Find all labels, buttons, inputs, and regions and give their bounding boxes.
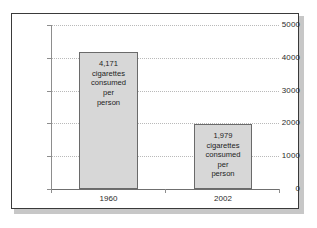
- y-axis-line: [51, 25, 52, 189]
- gridline-5000: [52, 25, 279, 26]
- bar-1960-line5: person: [80, 98, 137, 108]
- chart-frame: 5000 4000 3000 2000 1000 0 4,171 cigaret…: [11, 13, 299, 209]
- bar-1960-line2: cigarettes: [80, 69, 137, 79]
- y-tick-1000: [47, 156, 52, 157]
- y-tick-5000: [47, 25, 52, 26]
- y-tick-3000: [47, 91, 52, 92]
- bar-2002-label: 1,979 cigarettes consumed per person: [195, 131, 251, 179]
- figure-root: 5000 4000 3000 2000 1000 0 4,171 cigaret…: [0, 0, 317, 228]
- bar-2002-line2: cigarettes: [195, 141, 251, 151]
- x-tick-end: [279, 189, 280, 193]
- y-tick-2000: [47, 123, 52, 124]
- bar-2002-line4: per: [195, 160, 251, 170]
- bar-1960-value: 4,171: [80, 59, 137, 69]
- x-axis-label-2002: 2002: [194, 194, 252, 203]
- y-axis-label-5000: 5000: [266, 21, 300, 29]
- y-axis-label-4000: 4000: [266, 54, 300, 62]
- bar-1960[interactable]: 4,171 cigarettes consumed per person: [79, 52, 138, 189]
- y-axis-label-2000: 2000: [266, 119, 300, 127]
- y-axis-label-3000: 3000: [266, 87, 300, 95]
- bar-2002-line3: consumed: [195, 150, 251, 160]
- bar-1960-line4: per: [80, 88, 137, 98]
- y-tick-4000: [47, 58, 52, 59]
- bar-2002[interactable]: 1,979 cigarettes consumed per person: [194, 124, 252, 189]
- bar-1960-line3: consumed: [80, 78, 137, 88]
- y-axis-label-0: 0: [266, 185, 300, 193]
- bar-1960-label: 4,171 cigarettes consumed per person: [80, 59, 137, 107]
- plot-area: 5000 4000 3000 2000 1000 0 4,171 cigaret…: [12, 14, 300, 210]
- x-tick-mid: [165, 189, 166, 193]
- y-axis-label-1000: 1000: [266, 152, 300, 160]
- x-tick-start: [51, 189, 52, 193]
- x-axis-label-1960: 1960: [79, 194, 138, 203]
- bar-2002-value: 1,979: [195, 131, 251, 141]
- bar-2002-line5: person: [195, 169, 251, 179]
